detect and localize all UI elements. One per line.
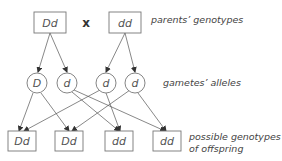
offspring-4: dd [153, 131, 181, 151]
gamete-offspring-arrows [19, 90, 166, 131]
gamete-1-allele: D [33, 77, 41, 90]
arrow-p1-g2 [50, 33, 67, 72]
gamete-2-allele: d [64, 77, 72, 90]
gamete-4-allele: d [132, 77, 140, 90]
arrow-g3-o1 [24, 90, 100, 131]
arrow-g2-o4 [74, 90, 165, 131]
parent-gamete-arrows [38, 33, 135, 72]
offspring-2: Dd [55, 131, 83, 151]
parent-genotype-dd-small: dd [109, 12, 141, 33]
arrow-p2-g3 [106, 33, 125, 72]
offspring-3: dd [105, 131, 133, 151]
parent-1-genotype: Dd [42, 17, 58, 30]
arrow-p1-g1 [38, 33, 50, 72]
offspring-3-genotype: dd [112, 135, 127, 148]
offspring-label-line1: possible genotypes [188, 131, 281, 142]
arrow-g1-o2 [41, 93, 69, 131]
offspring-1-genotype: Dd [14, 135, 30, 148]
genetic-cross-diagram: Dd x dd parents’ genotypes D d d d gamet… [0, 0, 282, 161]
gamete-2: d [57, 73, 77, 93]
arrow-g1-o1 [19, 93, 33, 131]
parents-label: parents’ genotypes [150, 14, 243, 25]
offspring-1: Dd [8, 131, 36, 151]
offspring-2-genotype: Dd [61, 135, 77, 148]
cross-symbol: x [82, 16, 90, 30]
arrow-g2-o3 [72, 92, 119, 131]
arrow-g4-o2 [72, 90, 130, 131]
gamete-3-allele: d [103, 77, 111, 90]
gamete-1: D [27, 73, 47, 93]
offspring-4-genotype: dd [160, 135, 175, 148]
parent-genotype-dd-big: Dd [34, 12, 66, 33]
gamete-4: d [125, 73, 145, 93]
gametes-label: gametes’ alleles [163, 77, 241, 88]
offspring-label-line2: of offspring [189, 143, 243, 154]
arrow-p2-g4 [125, 33, 135, 72]
parent-2-genotype: dd [118, 17, 133, 30]
gamete-3: d [96, 73, 116, 93]
